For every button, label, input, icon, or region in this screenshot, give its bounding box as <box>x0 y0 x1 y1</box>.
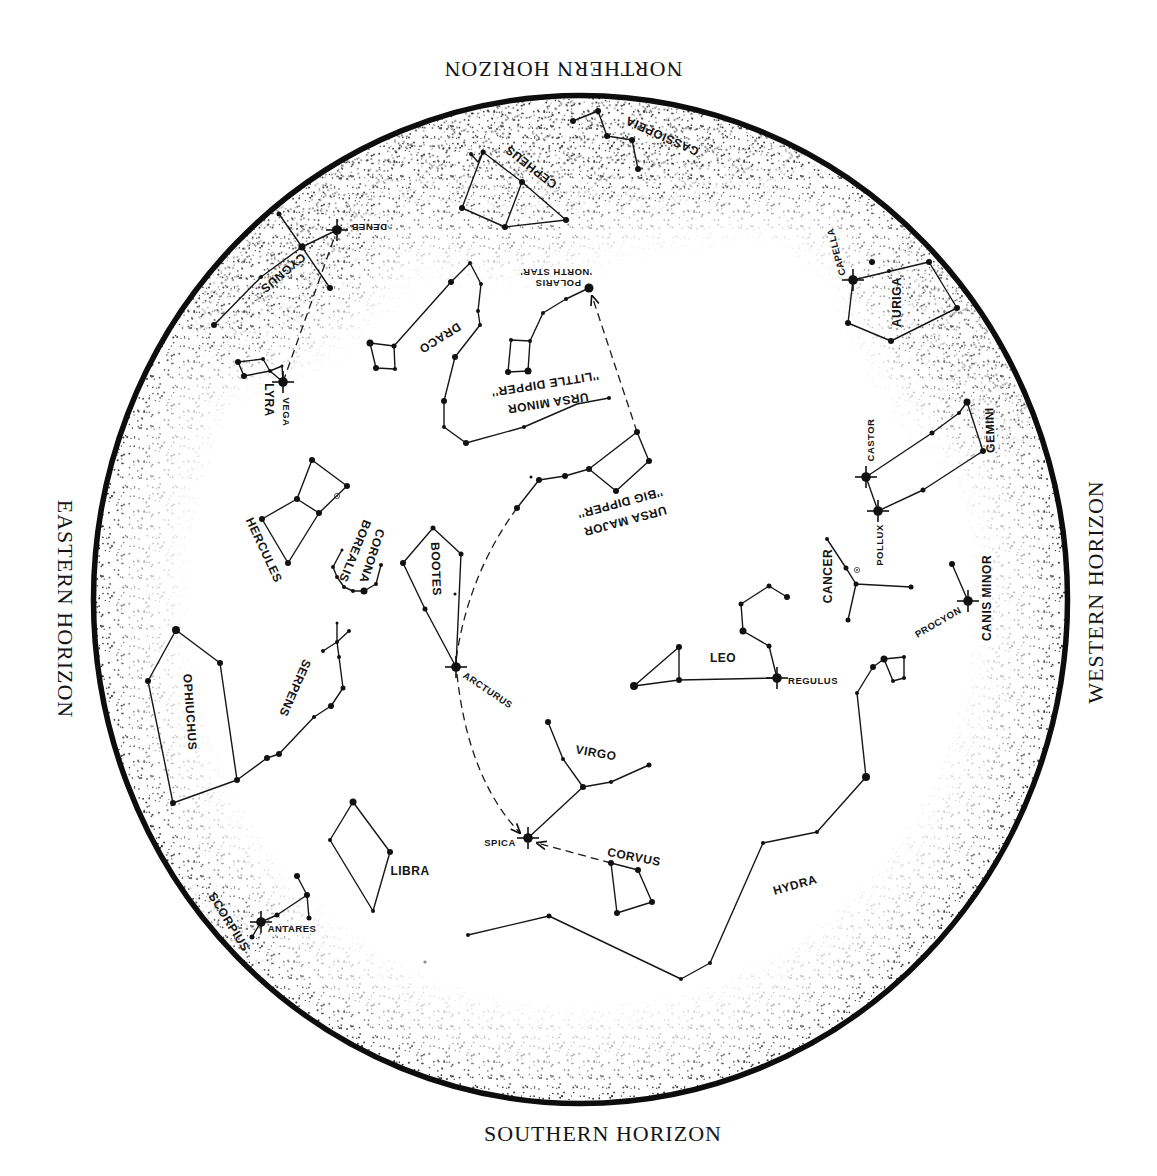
star-dot <box>172 626 180 634</box>
star-dot <box>630 682 638 690</box>
star-dot <box>562 473 568 479</box>
star-dot <box>328 703 334 709</box>
star-dot <box>476 309 480 313</box>
star-dot <box>466 933 470 937</box>
star-dot <box>570 118 576 124</box>
star-dot <box>679 977 683 981</box>
star-dot <box>767 644 772 649</box>
star-dot <box>921 488 926 493</box>
star-dot <box>423 607 428 612</box>
star-dot <box>361 588 368 595</box>
star-dot <box>888 338 894 344</box>
star-dot <box>145 678 151 684</box>
star-dot <box>561 757 565 761</box>
star-dot <box>604 133 610 139</box>
star-dot <box>277 212 282 217</box>
star-dot <box>881 656 888 663</box>
star-dot <box>930 431 935 436</box>
star-dot <box>547 914 552 919</box>
star-dot <box>634 429 640 435</box>
star-dot <box>299 244 306 251</box>
constellation-label: AURIGA <box>890 277 904 327</box>
constellation-label: LYRA <box>262 383 276 417</box>
star-dot <box>259 275 263 279</box>
star-dot <box>309 457 315 463</box>
star-dot <box>234 777 240 783</box>
star-dot <box>241 373 247 379</box>
star-dot <box>211 322 217 328</box>
star-dot <box>312 715 316 719</box>
constellation-label: LIBRA <box>390 864 429 878</box>
star-dot <box>250 935 255 940</box>
star-dot <box>350 799 357 806</box>
star-dot <box>294 873 300 879</box>
star-dot <box>855 691 859 695</box>
star-dot <box>259 516 265 522</box>
star-dot <box>379 563 383 567</box>
star-dot <box>344 483 350 489</box>
star-dot <box>170 800 176 806</box>
star-dot <box>387 849 393 855</box>
star-dot <box>441 398 447 404</box>
star-dot <box>367 340 374 347</box>
star-dot <box>327 285 333 291</box>
star-dot <box>844 566 849 571</box>
bright-star-dot <box>772 673 782 683</box>
bright-star-dot <box>963 596 973 606</box>
star-dot <box>371 909 375 913</box>
star-name-label: POLLUX <box>874 524 885 566</box>
star-name-label: 'NORTH STAR' <box>520 267 592 278</box>
star-dot <box>337 655 341 659</box>
star-dot <box>400 560 406 566</box>
star-name-label: POLARIS <box>535 278 581 289</box>
star-dot <box>509 338 513 342</box>
star-dot <box>891 679 895 683</box>
bright-star-dot <box>523 833 533 843</box>
star-dot <box>957 411 961 415</box>
star-dot <box>393 367 397 371</box>
star-dot <box>854 582 859 587</box>
star-dot <box>294 496 300 502</box>
star-name-label: ANTARES <box>268 923 317 934</box>
star-dot <box>331 565 335 569</box>
star-dot <box>502 224 508 230</box>
star-dot <box>825 537 829 541</box>
star-dot <box>563 217 569 223</box>
star-dot <box>316 510 322 516</box>
star-dot <box>608 860 614 866</box>
western-horizon-label: WESTERN HORIZON <box>1083 480 1108 703</box>
star-dot <box>373 365 379 371</box>
star-dot <box>525 368 532 375</box>
bright-star-dot <box>873 506 883 516</box>
star-dot <box>519 179 525 185</box>
star-name-label: REGULUS <box>788 675 838 686</box>
star-dot <box>454 593 457 596</box>
star-dot <box>902 655 906 659</box>
constellation-label: CANCER <box>821 549 835 603</box>
constellation-label: BOOTES <box>428 542 444 596</box>
star-name-label: CASTOR <box>865 419 876 462</box>
star-dot <box>336 622 339 625</box>
star-dot <box>281 365 284 368</box>
star-dot <box>646 458 652 464</box>
star-dot <box>586 466 592 472</box>
eastern-horizon-label: EASTERN HORIZON <box>53 500 78 719</box>
star-dot <box>595 108 601 114</box>
star-dot <box>564 297 568 301</box>
star-cluster-core <box>336 495 338 497</box>
star-dot <box>926 259 932 265</box>
star-dot <box>468 261 472 265</box>
bright-star-dot <box>848 275 858 285</box>
star-dot <box>514 505 520 511</box>
star-dot <box>902 676 906 680</box>
star-dot <box>761 841 765 845</box>
star-dot <box>635 867 641 873</box>
bright-star-dot <box>256 917 266 927</box>
constellation-label: GEMINI <box>982 407 998 453</box>
star-dot <box>528 339 532 343</box>
star-dot <box>541 311 545 315</box>
star-cluster-core <box>856 569 858 571</box>
star-dot <box>459 552 464 557</box>
bright-star-dot <box>861 472 871 482</box>
star-dot <box>614 910 620 916</box>
